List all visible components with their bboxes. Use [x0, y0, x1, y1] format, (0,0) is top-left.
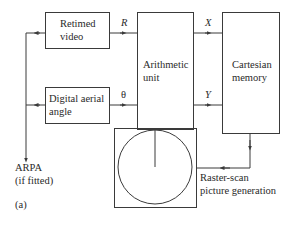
arithmetic-unit-label-2: unit — [143, 72, 159, 84]
digital-aerial-angle-label-2: angle — [49, 106, 72, 118]
raster-scan-label-2: picture generation — [200, 185, 276, 197]
signal-y-label: Y — [205, 89, 211, 101]
arithmetic-unit-label-1: Arithmetic — [143, 59, 189, 71]
signal-r-label: R — [121, 17, 127, 29]
arpa-label: ARPA — [15, 162, 42, 174]
signal-theta-label: θ — [121, 89, 126, 101]
digital-aerial-angle-label-1: Digital aerial — [49, 93, 104, 105]
arpa-if-fitted-label: (if fitted) — [15, 175, 53, 187]
raster-scan-label-1: Raster-scan — [200, 172, 249, 184]
cartesian-memory-label-2: memory — [232, 72, 267, 84]
cartesian-memory-label-1: Cartesian — [232, 59, 272, 71]
figure-label: (a) — [15, 199, 27, 211]
signal-x-label: X — [205, 17, 211, 29]
arithmetic-unit-block — [138, 13, 194, 130]
retimed-video-label-2: video — [60, 31, 83, 43]
retimed-video-label-1: Retimed — [60, 18, 96, 30]
